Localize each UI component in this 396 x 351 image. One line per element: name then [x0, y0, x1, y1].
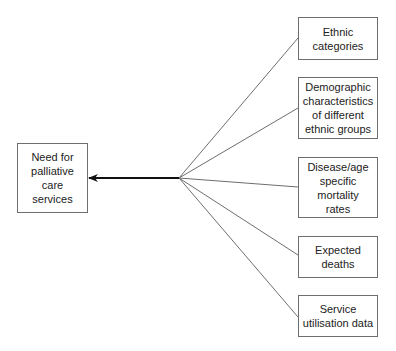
- source-box-service-utilisation: Service utilisation data: [298, 295, 378, 337]
- connector-line: [179, 178, 298, 317]
- source-box-label: Demographic characteristics of different…: [303, 80, 373, 136]
- source-box-label: Disease/age specific mortality rates: [307, 160, 368, 216]
- connector-line: [179, 38, 298, 178]
- connector-line: [179, 108, 298, 178]
- source-box-label: Ethnic categories: [313, 25, 364, 53]
- source-box-label: Service utilisation data: [303, 302, 373, 330]
- target-box-need-for-palliative-care: Need for palliative care services: [17, 143, 88, 213]
- source-box-mortality-rates: Disease/age specific mortality rates: [298, 157, 378, 218]
- target-box-label: Need for palliative care services: [31, 150, 74, 206]
- connector-line: [179, 178, 298, 187]
- source-box-label: Expected deaths: [315, 243, 361, 271]
- fan-lines: [179, 38, 298, 317]
- diagram-canvas: Need for palliative care services Ethnic…: [0, 0, 396, 351]
- source-box-ethnic-categories: Ethnic categories: [298, 17, 378, 60]
- connector-line: [179, 178, 298, 255]
- source-box-demographic-characteristics: Demographic characteristics of different…: [298, 77, 378, 139]
- source-box-expected-deaths: Expected deaths: [298, 236, 378, 278]
